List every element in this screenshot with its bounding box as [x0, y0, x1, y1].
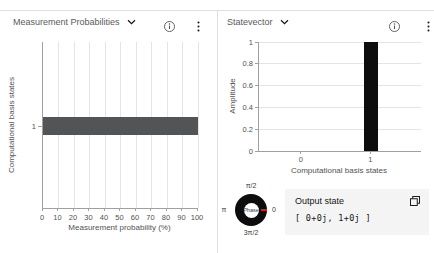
- copy-button[interactable]: [408, 194, 422, 208]
- x-tick-mark: [57, 208, 58, 211]
- statevector-panel: Statevector Amplitude Computational basi…: [217, 10, 434, 253]
- info-icon: [388, 20, 401, 33]
- output-state-title: Output state: [295, 196, 344, 206]
- y-tick-mark: [255, 151, 258, 152]
- x-tick-mark: [119, 208, 120, 211]
- gridline: [259, 42, 421, 43]
- panel-title: Statevector: [227, 17, 273, 27]
- statevector-dropdown[interactable]: Statevector: [227, 17, 289, 27]
- x-tick-mark: [300, 151, 301, 154]
- y-tick-mark: [255, 107, 258, 108]
- y-tick-label: 0: [233, 147, 253, 156]
- phase-tick-right: 0: [268, 206, 280, 214]
- x-tick-label: 1: [360, 155, 380, 164]
- measurement-probabilities-dropdown[interactable]: Measurement Probabilities: [13, 17, 136, 27]
- phase-tick-top: π/2: [239, 182, 263, 190]
- phase-tick-left: π: [218, 206, 230, 214]
- chevron-down-icon: [127, 19, 136, 25]
- x-tick-mark: [88, 208, 89, 211]
- copy-icon: [409, 195, 421, 207]
- probability-bar: [43, 117, 198, 135]
- y-tick-mark: [255, 129, 258, 130]
- x-tick-mark: [197, 208, 198, 211]
- y-axis-label: Computational basis states: [7, 60, 17, 190]
- x-axis-label: Measurement probability (%): [42, 223, 197, 233]
- phase-indicator: [261, 209, 267, 211]
- y-tick-label: 0.6: [233, 81, 253, 90]
- x-tick-mark: [73, 208, 74, 211]
- info-button[interactable]: [387, 19, 401, 33]
- x-tick-mark: [150, 208, 151, 211]
- statevector-chart: [258, 42, 421, 152]
- y-tick-label: 0.2: [233, 125, 253, 134]
- statevector-bar: [364, 42, 378, 151]
- gridline: [259, 129, 421, 130]
- y-tick-mark: [255, 63, 258, 64]
- y-tick-mark: [255, 85, 258, 86]
- overflow-menu-button[interactable]: [421, 19, 434, 33]
- gridline: [259, 85, 421, 86]
- measurement-probabilities-chart: [42, 42, 198, 209]
- x-tick-mark: [104, 208, 105, 211]
- output-state-card: Output state [ 0+0j, 1+0j ]: [285, 189, 429, 235]
- overflow-menu-button[interactable]: [191, 19, 205, 33]
- info-button[interactable]: [162, 19, 176, 33]
- x-tick-label: 100: [187, 213, 207, 222]
- overflow-menu-icon: [422, 20, 434, 33]
- chevron-down-icon: [280, 19, 289, 25]
- output-state-value: [ 0+0j, 1+0j ]: [295, 213, 371, 223]
- overflow-menu-icon: [192, 20, 205, 33]
- x-tick-mark: [370, 151, 371, 154]
- x-tick-mark: [135, 208, 136, 211]
- y-tick-label: 0.8: [233, 59, 253, 68]
- y-tick-label: 1: [24, 122, 36, 131]
- measurement-probabilities-panel: Measurement Probabilities Computational …: [0, 10, 217, 253]
- y-tick-label: 0.4: [233, 103, 253, 112]
- x-tick-label: 0: [291, 155, 311, 164]
- y-tick-mark: [255, 42, 258, 43]
- x-tick-mark: [166, 208, 167, 211]
- panel-title: Measurement Probabilities: [13, 17, 120, 27]
- gridline: [259, 107, 421, 108]
- y-tick-label: 1: [233, 38, 253, 47]
- x-tick-mark: [181, 208, 182, 211]
- phase-center-label: Phase: [244, 203, 259, 218]
- x-axis-label: Computational basis states: [258, 166, 420, 176]
- phase-tick-bottom: 3π/2: [237, 229, 265, 237]
- visualization-area: Measurement Probabilities Computational …: [0, 0, 434, 253]
- gridline: [259, 63, 421, 64]
- info-icon: [163, 20, 176, 33]
- y-tick-mark: [38, 126, 42, 127]
- x-tick-mark: [42, 208, 43, 211]
- y-axis-label: Amplitude: [228, 42, 238, 151]
